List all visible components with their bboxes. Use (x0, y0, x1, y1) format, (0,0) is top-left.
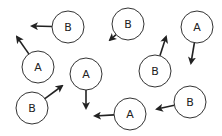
particle-label: B (124, 18, 132, 31)
particle-b: B (32, 11, 84, 43)
particle-b: B (139, 37, 171, 87)
velocity-arrow-icon (160, 37, 166, 56)
particle-b: B (16, 86, 62, 124)
diagram-svg: BABAABBBA (0, 0, 222, 136)
particle-b: B (157, 86, 206, 118)
particle-label: A (82, 68, 90, 81)
particle-label: B (64, 21, 72, 34)
particle-label: A (34, 61, 42, 74)
particle-diagram: BABAABBBA (0, 0, 222, 136)
velocity-arrow-icon (157, 105, 174, 109)
particle-label: B (151, 65, 159, 78)
particle-a: A (181, 11, 213, 63)
particle-a: A (70, 58, 102, 108)
velocity-arrow-icon (32, 26, 52, 27)
velocity-arrow-icon (17, 37, 29, 54)
velocity-arrow-icon (110, 35, 116, 40)
particle-label: B (186, 96, 194, 109)
particle-b: B (110, 8, 144, 40)
velocity-arrow-icon (45, 86, 62, 99)
velocity-arrow-icon (95, 115, 114, 116)
particle-a: A (17, 37, 54, 83)
particle-label: B (28, 102, 36, 115)
velocity-arrow-icon (191, 43, 194, 63)
particle-a: A (95, 98, 146, 130)
particle-label: A (126, 108, 134, 121)
particle-label: A (193, 21, 201, 34)
